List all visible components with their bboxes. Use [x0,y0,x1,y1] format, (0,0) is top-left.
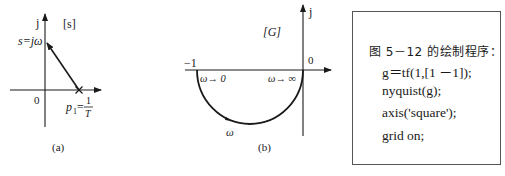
origin-label: 0 [34,94,40,106]
code-line: grid on; [382,128,424,144]
omega-label: ω [226,126,234,138]
code-line: g＝tf(1,[1 －1]); [382,61,472,81]
code-line: axis('square'); [382,105,457,121]
pole-label: p 1 = 1 T [65,95,93,119]
svg-text:1: 1 [86,95,91,106]
caption-b: (b) [258,141,271,154]
point-label: s=jω [18,34,43,48]
code-panel: 图 5－12 的绘制程序： g＝tf(1,[1 －1]); nyquist(g)… [352,11,501,165]
direction-arrow-icon [225,117,232,121]
plane-label: [G] [263,25,281,39]
vector-arrow [47,43,79,90]
origin-label: 0 [308,54,314,66]
caption-a: (a) [52,141,65,154]
omega-to-zero-label: ω→ 0 [200,73,227,84]
imag-axis-label: j [308,5,312,19]
omega-to-infinity-label: ω→ ∞ [268,73,296,84]
svg-text:T: T [85,108,92,119]
code-line: nyquist(g); [382,83,441,99]
panel-a-s-plane: j [s] s=jω 0 p 1 = 1 T (a) [10,14,101,154]
imag-axis-label: j [35,16,39,30]
svg-text:=: = [77,100,84,114]
panel-b-nyquist-plot: j [G] −1 0 ω→ 0 ω→ ∞ ω (b) [184,5,331,154]
svg-text:p: p [65,100,72,114]
plane-label: [s] [63,17,76,31]
code-panel-title: 图 5－12 的绘制程序： [369,42,502,59]
minus-one-label: −1 [184,56,197,70]
